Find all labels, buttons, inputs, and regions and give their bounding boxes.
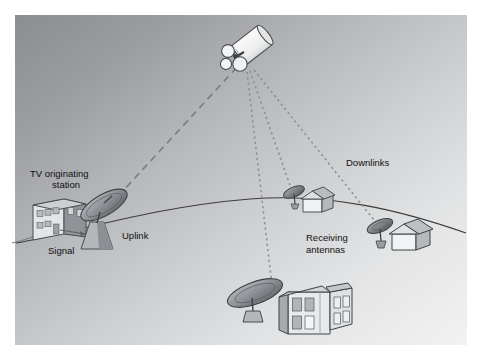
station-window — [53, 208, 59, 214]
house-right-front-wall — [392, 234, 416, 250]
station-window — [37, 223, 43, 229]
station-window — [45, 209, 51, 215]
label-signal: Signal — [48, 245, 74, 256]
ground-station-annex-window — [343, 311, 350, 322]
ground-station-door — [305, 316, 314, 329]
station-door — [54, 224, 60, 234]
label-receiving-antennas-line2: antennas — [306, 244, 345, 255]
ground-station-annex-wall — [330, 288, 352, 330]
ground-station-window — [293, 298, 302, 311]
house-left-front-wall — [303, 199, 322, 212]
station-side-window — [68, 208, 74, 215]
ground-station-dish-mast — [252, 298, 253, 311]
satellite-hub — [233, 54, 237, 58]
station-window — [45, 221, 51, 227]
house-right-dish-base — [376, 241, 386, 248]
ground-station-annex-window — [334, 313, 341, 324]
ground-station-dish-base — [243, 311, 263, 322]
ground-station-left-wall — [279, 292, 288, 334]
label-uplink: Uplink — [122, 230, 149, 241]
ground-station-window — [305, 298, 314, 311]
diagram-canvas: TV originating station Signal Uplink Dow… — [0, 0, 479, 357]
label-tv-originating-station-line2: station — [52, 179, 80, 190]
satellite-antenna-lower-right — [233, 57, 247, 71]
label-tv-originating-station-line1: TV originating — [30, 168, 89, 179]
station-window — [37, 211, 43, 217]
satellite-tv-diagram: TV originating station Signal Uplink Dow… — [0, 0, 479, 357]
satellite-antenna-lower-left — [220, 58, 231, 69]
label-downlinks: Downlinks — [346, 157, 390, 168]
ground-station-annex-window — [343, 296, 350, 307]
ground-station-window — [293, 316, 302, 329]
satellite-antenna-upper-left — [222, 45, 235, 58]
label-receiving-antennas-line1: Receiving — [306, 232, 348, 243]
ground-station-annex-window — [334, 297, 341, 308]
